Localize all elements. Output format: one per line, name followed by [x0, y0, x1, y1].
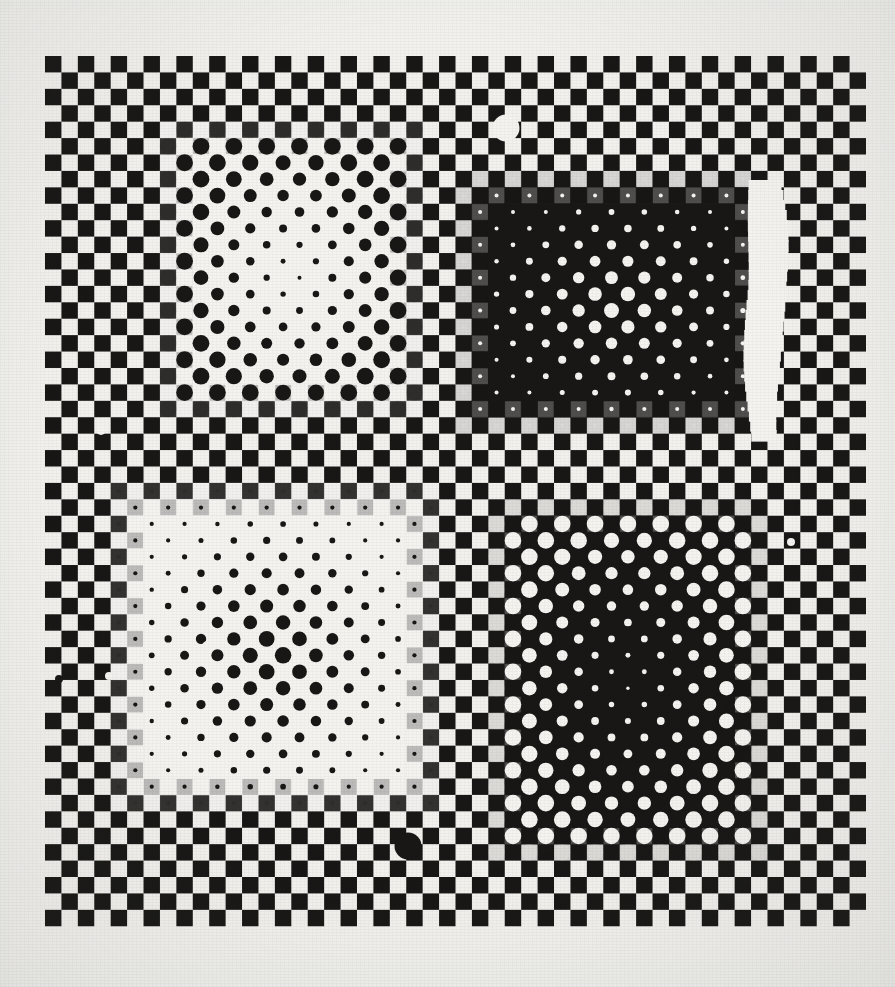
artwork-root	[0, 0, 895, 987]
op-art-plate-canvas	[0, 0, 895, 987]
